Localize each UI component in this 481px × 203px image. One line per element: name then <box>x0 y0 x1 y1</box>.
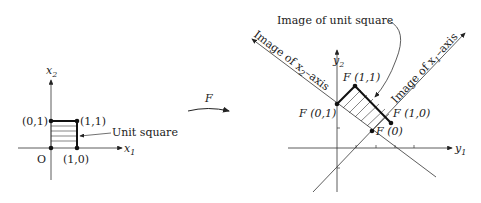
unit-square-edge <box>51 121 77 148</box>
map-arrow: F <box>188 92 229 111</box>
image-square-pointer <box>375 21 401 97</box>
origin-point <box>49 146 54 151</box>
image-x1-axis-label: Image of x1–axis <box>389 30 462 107</box>
codomain-plane: Image of unit square Image of x2–axis Im… <box>250 14 466 192</box>
point-F0 <box>370 129 375 134</box>
domain-plane: x2 x1 (0,1) (1,1) (1,0) O Unit square <box>18 64 178 180</box>
label-F10: F (1,0) <box>392 107 430 120</box>
origin-label: O <box>37 153 46 166</box>
label-11: (1,1) <box>80 115 106 128</box>
unit-square-label: Unit square <box>112 126 178 139</box>
label-F01: F (0,1) <box>298 107 336 120</box>
point-F01 <box>335 102 340 107</box>
y2-axis-label: y2 <box>332 54 344 69</box>
point-F11 <box>353 84 358 89</box>
label-F11: F (1,1) <box>342 71 380 84</box>
y1-axis-label: y1 <box>454 142 466 157</box>
label-01: (0,1) <box>22 115 48 128</box>
x1-axis-label: x1 <box>124 142 135 157</box>
label-F0: F (0) <box>375 125 403 138</box>
x2-axis-label: x2 <box>46 64 57 79</box>
image-unit-square-label: Image of unit square <box>277 14 393 27</box>
point-10 <box>75 146 80 151</box>
linear-map-diagram: x2 x1 (0,1) (1,1) (1,0) O Unit square F <box>0 0 481 203</box>
map-label: F <box>204 92 213 105</box>
label-10: (1,0) <box>63 153 89 166</box>
point-11 <box>75 119 80 124</box>
unit-square-pointer <box>80 133 111 136</box>
image-square-edge <box>337 86 391 123</box>
image-x2-axis-label: Image of x2–axis <box>250 28 332 95</box>
point-01 <box>49 119 54 124</box>
unit-square-hatching <box>51 121 77 148</box>
